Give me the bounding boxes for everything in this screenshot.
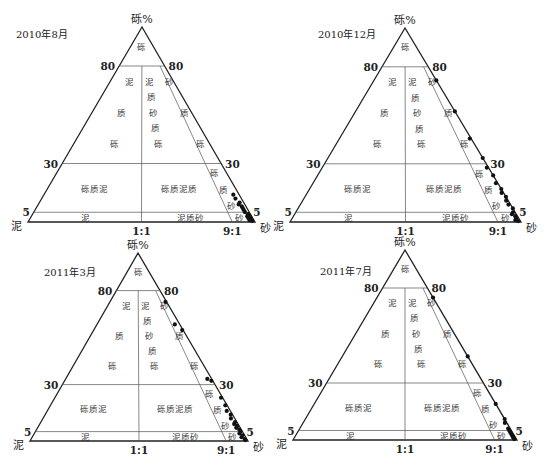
- data-point: [503, 421, 507, 425]
- data-point: [512, 437, 516, 441]
- region-sand: 砂: [235, 213, 244, 223]
- left-tick-label: 30: [44, 379, 59, 391]
- base-tick-9-1: 9:1: [485, 443, 504, 455]
- region-gravelly-mud: 砾质泥: [345, 403, 372, 413]
- panel-title: 2011年7月: [320, 265, 372, 277]
- region-muddy-gravel: 砾: [108, 361, 117, 371]
- right-vertex-label: 砂: [522, 440, 533, 453]
- region-gravel: 砾: [401, 42, 410, 52]
- base-tick-9-1: 9:1: [223, 225, 242, 237]
- region-muddy-gravel: 质: [115, 331, 124, 341]
- base-tick-9-1: 9:1: [489, 225, 508, 237]
- region-muddy-sandy-gravel: 砂: [412, 329, 421, 339]
- base-tick-1-1: 1:1: [132, 225, 151, 237]
- right-tick-label: 80: [169, 60, 184, 72]
- region-muddy-sand: 泥质砂: [440, 431, 467, 441]
- left-tick-label: 5: [284, 206, 291, 218]
- right-tick-label: 5: [519, 206, 526, 218]
- apex-label: 砾%: [394, 14, 415, 27]
- base-tick-1-1: 1:1: [396, 443, 415, 455]
- region-gravelly-mud: 砾质泥: [344, 184, 371, 194]
- region-sandy-gravel: 质: [180, 108, 189, 118]
- data-point: [481, 156, 485, 160]
- left-vertex-label: 泥: [273, 220, 284, 233]
- left-vertex-label: 泥: [276, 438, 287, 451]
- region-gravelly-sand: 质: [481, 404, 490, 414]
- right-tick-label: 80: [431, 282, 446, 294]
- data-point: [466, 354, 470, 358]
- data-point: [431, 295, 435, 299]
- region-muddy-sandy-gravel: 砂: [413, 108, 422, 118]
- panel-title: 2011年3月: [44, 266, 96, 278]
- region-muddy-sandy-gravel: 砾: [417, 139, 426, 149]
- right-tick-label: 30: [219, 379, 234, 391]
- data-point: [504, 195, 508, 199]
- right-vertex-label: 砂: [253, 441, 264, 454]
- region-sand: 砂: [501, 213, 510, 223]
- region-mud: 泥: [81, 432, 90, 442]
- region-sandy-gravel: 砾: [190, 361, 199, 371]
- ternary-panel-3: 80803030551:19:1砾%泥砂2011年3月砾泥质砾泥质砂质砾砂质砾砾…: [13, 239, 264, 456]
- left-tick-label: 5: [24, 426, 31, 438]
- data-point: [491, 173, 495, 177]
- region-muddy-sandy-gravel: 质: [151, 123, 160, 133]
- data-point: [229, 416, 233, 420]
- region-muddy-sandy-gravel: 泥: [145, 77, 154, 87]
- right-tick-label: 30: [225, 158, 240, 170]
- region-muddy-sandy-gravel: 质: [410, 313, 419, 323]
- data-point: [485, 166, 489, 170]
- region-gravelly-muddy-sand: 砾质泥质: [161, 184, 197, 194]
- region-gravelly-sand: 质: [484, 185, 493, 195]
- right-tick-label: 80: [164, 285, 179, 297]
- region-muddy-gravel: 泥: [125, 77, 134, 87]
- region-muddy-gravel: 泥: [388, 77, 397, 87]
- region-muddy-sandy-gravel: 砾: [154, 139, 163, 149]
- region-sandy-gravel: 质: [175, 331, 184, 341]
- data-point: [243, 438, 247, 442]
- region-gravelly-muddy-sand: 砾质泥质: [426, 184, 462, 194]
- left-tick-label: 80: [98, 285, 113, 297]
- region-muddy-gravel: 泥: [122, 301, 131, 311]
- region-gravelly-sand: 砾: [475, 169, 484, 179]
- region-gravelly-sand: 质: [213, 405, 222, 415]
- data-point: [468, 136, 472, 140]
- left-tick-label: 80: [101, 60, 116, 72]
- right-tick-label: 80: [432, 61, 447, 73]
- panel-title: 2010年12月: [318, 28, 376, 40]
- region-mud: 泥: [346, 431, 355, 441]
- region-muddy-sand: 泥质砂: [177, 213, 204, 223]
- region-gravel: 砾: [401, 264, 410, 274]
- region-muddy-sandy-gravel: 质: [414, 344, 423, 354]
- region-muddy-sandy-gravel: 砂: [149, 108, 158, 118]
- region-muddy-sandy-gravel: 砾: [417, 359, 426, 369]
- data-point: [231, 193, 235, 197]
- region-muddy-sand: 泥质砂: [172, 432, 199, 442]
- apex-label: 砾%: [394, 236, 415, 249]
- region-sandy-gravel: 砾: [458, 359, 467, 369]
- data-point: [494, 181, 498, 185]
- data-point: [511, 206, 515, 210]
- region-sandy-gravel: 质: [443, 329, 452, 339]
- left-tick-label: 30: [308, 377, 323, 389]
- region-muddy-sandy-gravel: 砾: [150, 361, 159, 371]
- region-gravelly-sand: 砾: [205, 389, 214, 399]
- right-tick-label: 30: [490, 158, 505, 170]
- left-tick-label: 5: [287, 425, 294, 437]
- region-sand: 砂: [228, 432, 237, 442]
- left-tick-label: 80: [363, 61, 378, 73]
- region-gravelly-sand: 砂: [492, 201, 501, 211]
- data-point: [233, 197, 237, 201]
- left-tick-label: 30: [44, 158, 59, 170]
- region-muddy-gravel: 泥: [388, 298, 397, 308]
- region-muddy-sandy-gravel: 砂: [145, 331, 154, 341]
- region-muddy-sand: 泥质砂: [442, 213, 469, 223]
- left-tick-label: 80: [364, 282, 379, 294]
- region-sandy-gravel: 砾: [460, 139, 469, 149]
- region-gravelly-muddy-sand: 砾质泥质: [157, 404, 193, 414]
- left-vertex-label: 泥: [11, 220, 22, 233]
- region-gravelly-sand: 砾: [473, 388, 482, 398]
- data-point: [494, 402, 498, 406]
- region-sandy-gravel: 砂: [427, 298, 436, 308]
- right-tick-label: 30: [487, 377, 502, 389]
- data-point: [504, 199, 508, 203]
